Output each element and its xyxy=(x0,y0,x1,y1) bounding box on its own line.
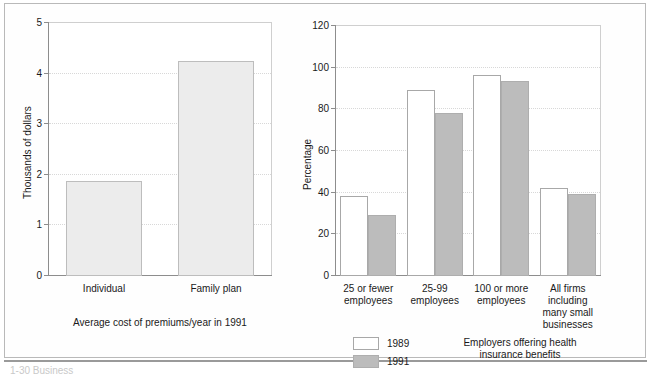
left-chart-panel: 012345Thousands of dollarsIndividualFami… xyxy=(4,3,290,358)
right-y-tick xyxy=(331,192,335,193)
left-chart-caption: Average cost of premiums/year in 1991 xyxy=(8,317,312,329)
bar xyxy=(368,215,396,276)
bar xyxy=(435,113,463,277)
category-label-line: 25 or fewer xyxy=(331,283,406,295)
category-label-line: businesses xyxy=(531,319,606,331)
bar xyxy=(501,81,529,276)
bar xyxy=(568,194,596,276)
category-label: Individual xyxy=(48,283,160,295)
right-gridline xyxy=(336,108,600,109)
category-label: 25 or feweremployees xyxy=(331,283,406,307)
category-label-line: 100 or more xyxy=(464,283,539,295)
category-label-line: 25-99 xyxy=(398,283,473,295)
caption-line: Employers offering health xyxy=(435,337,605,349)
category-label-line: many small xyxy=(531,307,606,319)
right-y-axis xyxy=(335,25,336,276)
left-y-tick xyxy=(44,174,48,175)
right-y-tick-label: 0 xyxy=(303,270,329,281)
left-y-tick xyxy=(44,224,48,225)
right-chart-panel: 020406080100120Percentage25 or fewerempl… xyxy=(290,3,646,358)
left-y-tick xyxy=(44,73,48,74)
category-label-line: All firms including xyxy=(531,283,606,307)
right-y-tick xyxy=(331,275,335,276)
right-y-tick-label: 100 xyxy=(303,61,329,72)
bar xyxy=(473,75,501,276)
category-label-line: employees xyxy=(398,295,473,307)
right-y-tick xyxy=(331,150,335,151)
bar xyxy=(407,90,435,276)
left-y-tick xyxy=(44,275,48,276)
right-gridline xyxy=(336,150,600,151)
chart-figure: 1-30 Business 012345Thousands of dollars… xyxy=(0,0,652,376)
left-y-tick xyxy=(44,123,48,124)
left-y-tick xyxy=(44,22,48,23)
right-y-tick-label: 80 xyxy=(303,103,329,114)
left-y-axis xyxy=(48,22,49,276)
right-y-axis-title: Percentage xyxy=(302,139,313,190)
figure-cut-caption: 1-30 Business xyxy=(10,366,210,376)
right-y-tick xyxy=(331,108,335,109)
legend-label: 1991 xyxy=(387,355,409,368)
legend-swatch-1991 xyxy=(353,355,379,368)
right-y-tick xyxy=(331,25,335,26)
right-y-tick-label: 120 xyxy=(303,20,329,31)
left-y-axis-title: Thousands of dollars xyxy=(22,106,33,199)
caption-line: insurance benefits xyxy=(435,349,605,361)
left-y-tick-label: 5 xyxy=(18,17,42,28)
category-label-line: employees xyxy=(464,295,539,307)
category-label: 100 or moreemployees xyxy=(464,283,539,307)
bar xyxy=(178,61,254,276)
bar xyxy=(540,188,568,277)
right-y-tick xyxy=(331,233,335,234)
category-label: All firms includingmany smallbusinesses xyxy=(531,283,606,331)
left-y-tick-label: 4 xyxy=(18,67,42,78)
category-label: Family plan xyxy=(160,283,272,295)
right-chart-caption: Employers offering healthinsurance benef… xyxy=(435,337,605,361)
legend-label: 1989 xyxy=(387,337,409,350)
left-y-tick-label: 1 xyxy=(18,219,42,230)
right-y-tick xyxy=(331,67,335,68)
right-gridline xyxy=(336,67,600,68)
bar xyxy=(66,181,142,276)
bar xyxy=(340,196,368,276)
category-label: 25-99employees xyxy=(398,283,473,307)
legend-swatch-1989 xyxy=(353,337,379,350)
left-y-tick-label: 0 xyxy=(18,270,42,281)
category-label-line: employees xyxy=(331,295,406,307)
right-y-tick-label: 20 xyxy=(303,228,329,239)
